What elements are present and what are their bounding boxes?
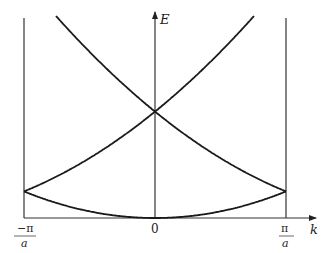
k-axis-label: k <box>310 222 318 237</box>
e-axis-label: E <box>159 12 170 27</box>
tick-label-right-numerator: π <box>281 222 288 235</box>
tick-label-zero: 0 <box>151 222 159 236</box>
tick-label-left-denominator: a <box>21 237 28 250</box>
band-diagram: E k 0 −π a π a <box>0 0 330 253</box>
band-shifted-right-curve <box>24 16 254 191</box>
band-shifted-left-curve <box>56 16 286 191</box>
tick-label-right-denominator: a <box>282 237 289 250</box>
tick-label-left-numerator: −π <box>17 222 33 235</box>
